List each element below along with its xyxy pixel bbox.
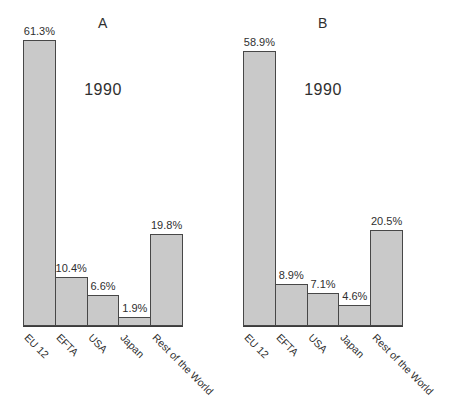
chart-panel-b: B 1990 58.9%EU 128.9%EFTA7.1%USA4.6%Japa… bbox=[228, 0, 456, 406]
x-tick-label-rest-of-the-world: Rest of the World bbox=[150, 332, 215, 397]
bar-value-label-efta: 10.4% bbox=[56, 263, 87, 274]
bar-value-label-rest-of-the-world: 19.8% bbox=[151, 220, 182, 231]
x-tick-label-usa: USA bbox=[87, 332, 110, 355]
bar-rest-of-the-world bbox=[370, 230, 403, 326]
x-tick-label-usa: USA bbox=[307, 332, 330, 355]
bar-efta bbox=[55, 277, 88, 326]
bar-value-label-japan: 4.6% bbox=[342, 291, 367, 302]
chart-b-column: B 1990 58.9%EU 128.9%EFTA7.1%USA4.6%Japa… bbox=[243, 0, 403, 406]
figure: A 1990 61.3%EU 1210.4%EFTA6.6%USA1.9%Jap… bbox=[0, 0, 456, 406]
bar-value-label-rest-of-the-world: 20.5% bbox=[371, 216, 402, 227]
x-tick-label-rest-of-the-world: Rest of the World bbox=[370, 332, 435, 397]
bar-japan bbox=[338, 305, 371, 326]
bar-rest-of-the-world bbox=[150, 234, 183, 326]
chart-panel-a: A 1990 61.3%EU 1210.4%EFTA6.6%USA1.9%Jap… bbox=[0, 0, 228, 406]
bar-eu-12 bbox=[23, 40, 56, 326]
bar-eu-12 bbox=[243, 51, 276, 326]
bar-efta bbox=[275, 284, 308, 326]
x-tick-label-japan: Japan bbox=[338, 332, 366, 360]
x-tick-label-efta: EFTA bbox=[275, 332, 301, 358]
bar-usa bbox=[307, 293, 340, 326]
bar-value-label-eu-12: 58.9% bbox=[244, 37, 275, 48]
x-tick-label-japan: Japan bbox=[118, 332, 146, 360]
bar-japan bbox=[118, 317, 151, 326]
bar-usa bbox=[87, 295, 120, 326]
bar-value-label-eu-12: 61.3% bbox=[24, 26, 55, 37]
bar-value-label-efta: 8.9% bbox=[279, 270, 304, 281]
x-tick-label-efta: EFTA bbox=[55, 332, 81, 358]
x-tick-label-eu-12: EU 12 bbox=[243, 332, 271, 360]
chart-a-plot-area: 61.3%EU 1210.4%EFTA6.6%USA1.9%Japan19.8%… bbox=[23, 26, 183, 327]
x-tick-label-eu-12: EU 12 bbox=[23, 332, 51, 360]
bar-value-label-japan: 1.9% bbox=[122, 303, 147, 314]
bar-value-label-usa: 7.1% bbox=[310, 279, 335, 290]
bar-value-label-usa: 6.6% bbox=[90, 281, 115, 292]
chart-b-plot-area: 58.9%EU 128.9%EFTA7.1%USA4.6%Japan20.5%R… bbox=[243, 26, 403, 327]
chart-a-column: A 1990 61.3%EU 1210.4%EFTA6.6%USA1.9%Jap… bbox=[23, 0, 183, 406]
